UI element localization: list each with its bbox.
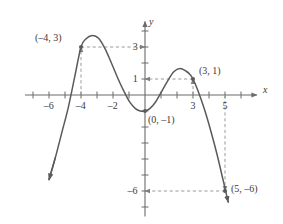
x-axis-label: x — [263, 85, 267, 95]
point-label-pt-c: (0, –1) — [148, 115, 175, 125]
point-label-pt-b: (3, 1) — [199, 66, 221, 76]
curve-path — [49, 35, 228, 202]
axes-layer — [25, 21, 257, 216]
point-marker-pt-a — [79, 45, 83, 49]
function-curve — [49, 35, 228, 202]
curve-start-arrow — [49, 157, 55, 179]
point-marker-pt-d — [223, 189, 227, 193]
y-tick-label-1: 1 — [133, 74, 138, 84]
point-marker-pt-b — [191, 77, 195, 81]
point-label-pt-d: (5, –6) — [231, 184, 258, 194]
x-tick-label--6: –6 — [44, 101, 54, 111]
x-tick-label--2: –2 — [108, 101, 118, 111]
point-marker-pt-c — [143, 109, 147, 113]
x-tick-label--4: –4 — [76, 101, 86, 111]
x-tick-label-3: 3 — [190, 101, 195, 111]
point-label-pt-a: (–4, 3) — [35, 33, 62, 43]
axis-ticks — [33, 31, 241, 207]
y-tick-label-3: 3 — [133, 42, 138, 52]
y-tick-label--6: –6 — [128, 186, 138, 196]
x-tick-label-5: 5 — [222, 101, 227, 111]
graph-figure: –6–4–23531–6xy(–4, 3)(3, 1)(0, –1)(5, –6… — [0, 0, 283, 224]
y-axis-label: y — [149, 17, 153, 27]
